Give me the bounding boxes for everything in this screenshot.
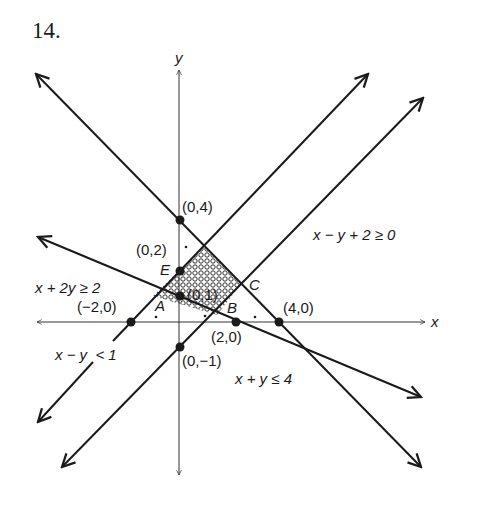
line-x-minus-y-plus-2-eq-0-upper <box>113 74 368 341</box>
point-0-neg1 <box>176 343 185 352</box>
line-x-plus-y-eq-4 <box>36 74 421 467</box>
label-0-2: (0,2) <box>136 241 167 258</box>
side-dot <box>155 316 158 319</box>
point-0-4 <box>176 216 185 225</box>
point-neg2-0 <box>127 318 136 327</box>
vertex-label-E: E <box>160 261 171 278</box>
label-4-0: (4,0) <box>283 299 314 316</box>
line-x-minus-y-plus-2-eq-0-lower <box>38 362 93 422</box>
label-neg2-0: (−2,0) <box>77 298 117 315</box>
side-dot <box>204 315 207 318</box>
side-dot <box>185 246 188 249</box>
line-x-plus-2y-eq-2 <box>38 237 421 397</box>
inequality-x-plus-2y: x + 2y ≥ 2 <box>34 279 101 296</box>
point-2-0 <box>232 318 241 327</box>
inequality-x-minus-y-plus-2: x − y + 2 ≥ 0 <box>312 226 396 243</box>
vertex-label-C: C <box>249 276 260 293</box>
side-dot <box>254 316 257 319</box>
label-0-4: (0,4) <box>182 198 213 215</box>
y-axis-label: y <box>174 49 184 66</box>
vertex-label-A: A <box>154 297 165 314</box>
label-2-0: (2,0) <box>211 328 242 345</box>
linear-inequalities-graph: x y (0,4) (0,2) (0,1) (−2,0) (2,0) (4,0)… <box>0 0 483 506</box>
point-4-0 <box>275 318 284 327</box>
inequality-x-minus-y: x − y < 1 <box>54 346 117 363</box>
label-0-neg1: (0,−1) <box>182 352 222 369</box>
line-x-minus-y-eq-1 <box>62 98 423 467</box>
point-0-2 <box>176 267 185 276</box>
x-axis-label: x <box>430 313 439 330</box>
vertex-label-B: B <box>227 299 237 316</box>
point-0-1 <box>176 292 185 301</box>
label-0-1: (0,1) <box>187 286 218 303</box>
inequality-x-plus-y: x + y ≤ 4 <box>234 370 292 387</box>
